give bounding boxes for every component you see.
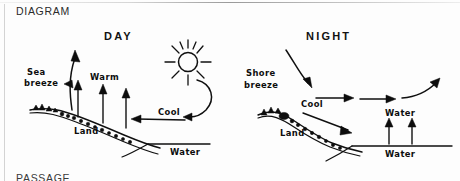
label-warm: Warm [90,72,119,82]
panel-night: NIGHT [244,30,452,161]
sun-icon [165,40,211,85]
label-land-night: Land [280,128,305,138]
label-sea-breeze-line2: breeze [24,78,58,88]
label-cool-day: Cool [158,107,180,117]
label-land-day: Land [74,126,99,136]
water-rising-arrowheads [385,118,416,127]
label-sea-breeze-line1: Sea [27,67,46,77]
label-water-day: Water [170,147,201,157]
label-shore-breeze-line1: Shore [246,68,276,78]
cool-outflow-arrows [316,78,440,103]
worksheet-page: DIAGRAM PASSAGE DAY [0,0,460,181]
panel-day: DAY [24,30,212,157]
panel-title-day: DAY [104,30,133,42]
warm-arrowheads [74,80,130,98]
label-water-upper-night: Water [385,108,416,118]
breeze-diagram-artwork: DAY [0,0,460,181]
panel-title-night: NIGHT [306,30,351,42]
label-cool-night: Cool [301,99,323,109]
label-shore-breeze-line2: breeze [244,80,278,90]
shore-breeze-arrow [286,50,312,88]
sun-descending-arrow [183,80,212,121]
label-water-lower-night: Water [385,149,416,159]
sea-breeze-pointer [64,80,73,88]
